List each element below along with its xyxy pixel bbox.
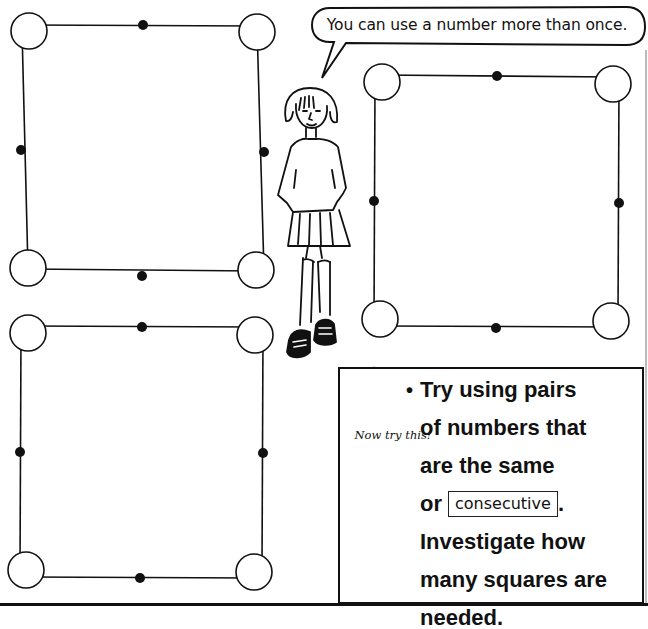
answer-circle[interactable] [362,301,398,337]
answer-circle[interactable] [10,250,46,286]
speech-bubble-text: You can use a number more than once. [318,10,636,40]
answer-circles-bottom-left [8,315,273,590]
bullet-point: • [406,371,413,409]
girl-illustration [278,88,350,357]
instruction-line-2: of numbers that [420,409,648,447]
square-puzzle-top-right [374,75,619,327]
answer-circle[interactable] [11,13,47,49]
answer-circle[interactable] [364,64,400,100]
instruction-or: or [420,491,442,516]
answer-circles-top-left [10,13,275,288]
instruction-line-1: Try using pairs [420,371,648,409]
answer-circle[interactable] [10,315,46,351]
instruction-line-6: many squares are [420,561,648,599]
challenge-instructions: • Try using pairs of numbers that are th… [420,371,648,629]
midpoint-dots-bottom-left [15,322,268,583]
instruction-period: . [558,491,564,516]
midpoint-dots-top-right [369,71,624,333]
answer-circle[interactable] [236,554,272,590]
instruction-line-4: orconsecutive. [420,485,648,523]
answer-circle[interactable] [237,317,273,353]
answer-circles-top-right [362,64,631,339]
instruction-line-3: are the same [420,447,648,485]
bottom-rule [0,603,648,606]
square-puzzle-bottom-left [20,326,263,578]
answer-circle[interactable] [593,303,629,339]
answer-circle[interactable] [595,66,631,102]
answer-circle[interactable] [8,552,44,588]
vocabulary-word-box: consecutive [448,491,558,517]
answer-circle[interactable] [238,252,274,288]
instruction-line-5: Investigate how [420,523,648,561]
answer-circle[interactable] [239,14,275,50]
midpoint-dots-top-left [16,20,269,281]
square-puzzle-top-left [22,25,264,271]
